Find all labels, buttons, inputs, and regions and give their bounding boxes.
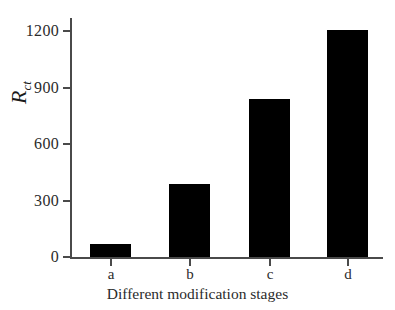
y-axis-spine <box>70 18 72 258</box>
y-axis-title-subscript: ct <box>19 81 34 90</box>
x-tick-a <box>110 258 112 266</box>
x-tick-label-b: b <box>170 266 210 283</box>
x-axis-title: Different modification stages <box>0 285 395 303</box>
bar-chart-figure: 1200 900 600 300 0 a b c d Different mod… <box>0 0 395 310</box>
x-tick-label-a: a <box>91 266 131 283</box>
y-tick-600 <box>63 143 71 145</box>
y-tick-300 <box>63 200 71 202</box>
x-tick-d <box>347 258 349 266</box>
y-axis-title: Rct <box>6 81 35 104</box>
x-tick-label-c: c <box>250 266 290 283</box>
x-axis-spine <box>70 257 383 259</box>
y-tick-900 <box>63 87 71 89</box>
bar-d <box>327 30 368 258</box>
bar-c <box>249 99 290 258</box>
y-axis-title-main: R <box>6 91 31 104</box>
y-tick-label-0: 0 <box>0 248 59 266</box>
x-tick-c <box>269 258 271 266</box>
y-tick-label-1200: 1200 <box>0 22 59 40</box>
x-tick-label-d: d <box>328 266 368 283</box>
y-tick-1200 <box>63 30 71 32</box>
bar-a <box>90 244 131 258</box>
y-tick-label-600: 600 <box>0 135 59 153</box>
y-tick-label-300: 300 <box>0 192 59 210</box>
x-tick-b <box>189 258 191 266</box>
bar-b <box>169 184 210 258</box>
